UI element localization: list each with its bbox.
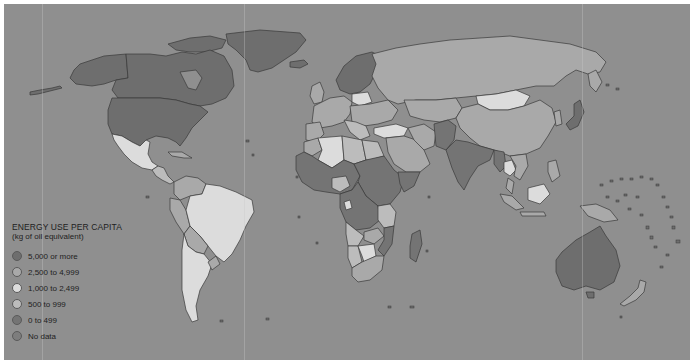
region-indonesia-sumatra	[500, 194, 524, 210]
region-borneo	[528, 184, 550, 204]
legend-title: ENERGY USE PER CAPITA	[12, 222, 122, 232]
legend-subtitle: (kg of oil equivalent)	[12, 232, 122, 242]
legend-swatch-icon	[12, 315, 22, 325]
region-ecuador-peru	[170, 198, 190, 234]
region-java	[520, 212, 546, 216]
region-arctic-islands	[168, 36, 226, 52]
legend-swatch-icon	[12, 299, 22, 309]
legend-item-0-to-499: 0 to 499	[12, 312, 122, 328]
legend-label: 5,000 or more	[28, 252, 78, 261]
region-kamchatka	[588, 70, 602, 92]
region-new-zealand	[620, 280, 646, 306]
legend-item-5000-or-more: 5,000 or more	[12, 248, 122, 264]
region-russia	[372, 36, 606, 104]
region-uk	[310, 82, 324, 104]
region-philippines	[548, 160, 560, 182]
legend-label: 0 to 499	[28, 316, 57, 325]
legend-item-no-data: No data	[12, 328, 122, 344]
region-central-america	[152, 166, 174, 184]
legend-label: 500 to 999	[28, 300, 66, 309]
region-cuba	[168, 152, 192, 158]
legend-label: 1,000 to 2,499	[28, 284, 79, 293]
region-aleutians	[30, 86, 62, 95]
legend-item-2500-to-4999: 2,500 to 4,999	[12, 264, 122, 280]
region-mozambique	[378, 226, 394, 256]
region-malaysia	[506, 178, 514, 194]
map-legend: ENERGY USE PER CAPITA (kg of oil equival…	[12, 222, 122, 344]
legend-item-500-to-999: 500 to 999	[12, 296, 122, 312]
map-seam	[244, 4, 245, 360]
legend-label: No data	[28, 332, 56, 341]
region-iceland	[290, 60, 308, 68]
region-zambia	[364, 228, 384, 244]
map-seam	[582, 4, 583, 360]
region-central-asia	[404, 98, 462, 122]
region-papua	[580, 204, 618, 222]
legend-swatch-icon	[12, 251, 22, 261]
region-tasmania	[586, 292, 594, 298]
region-kenya-tanzania	[378, 204, 396, 228]
legend-swatch-icon	[12, 331, 22, 341]
legend-label: 2,500 to 4,999	[28, 268, 79, 277]
legend-item-1000-to-2499: 1,000 to 2,499	[12, 280, 122, 296]
region-australia	[556, 226, 620, 290]
region-canada	[112, 50, 234, 106]
region-madagascar	[410, 230, 422, 262]
region-arabian-horn	[398, 172, 420, 192]
legend-swatch-icon	[12, 283, 22, 293]
legend-swatch-icon	[12, 267, 22, 277]
